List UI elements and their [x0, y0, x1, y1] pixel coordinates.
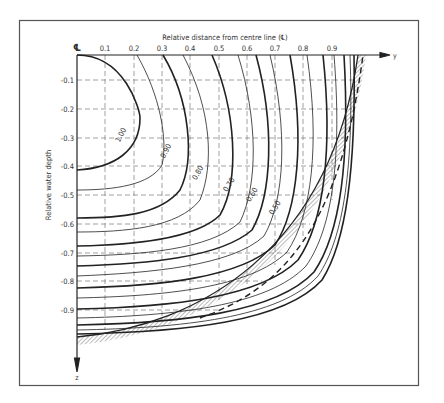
y-axis-symbol: y — [393, 52, 397, 60]
contour-label-0.80: 0.80 — [190, 164, 205, 182]
x-tick-label: 0.7 — [270, 44, 281, 53]
contour-0.70 — [77, 55, 269, 266]
contour-label-0.90: 0.90 — [158, 142, 173, 159]
contour-0.90 — [77, 55, 188, 218]
y-tick-label: -0.7 — [61, 249, 74, 258]
y-tick-label: -0.2 — [61, 105, 74, 114]
contour-label-0.70: 0.70 — [221, 176, 237, 194]
x-tick-label: 0.5 — [214, 44, 225, 53]
x-tick-label: 0.1 — [100, 44, 111, 53]
contour-label-1.00: 1.00 — [113, 126, 128, 143]
y-tick-label: -0.6 — [61, 220, 74, 229]
y-axis-arrow-icon — [380, 53, 390, 58]
y-axis-title: Relative water depth — [44, 150, 53, 220]
y-tick-label: -0.9 — [61, 306, 74, 315]
x-tick-label: 0.6 — [242, 44, 253, 53]
x-tick-label: 0.8 — [298, 44, 309, 53]
x-tick-label: 0.3 — [157, 44, 168, 53]
y-tick-label: -0.4 — [61, 162, 74, 171]
x-tick-labels: 0.1 0.2 0.3 0.4 0.5 0.6 0.7 0.8 0.9 — [100, 44, 338, 53]
x-tick-label: 0.4 — [185, 44, 196, 53]
centre-line-symbol: ℄ — [73, 42, 81, 53]
y-tick-label: -0.8 — [61, 277, 74, 286]
contour-1.00 — [77, 55, 140, 170]
z-axis-arrow-icon — [75, 358, 80, 372]
contour-0.35 — [77, 55, 351, 330]
channel-bed-hatch — [77, 55, 366, 345]
contour-0.50 — [77, 55, 327, 309]
figure: Relative distance from centre line (℄) R… — [0, 0, 444, 403]
x-tick-label: 0.9 — [327, 44, 338, 53]
contour-label-0.50: 0.50 — [267, 199, 283, 217]
y-tick-label: -0.5 — [61, 191, 74, 200]
contour-0.65 — [77, 55, 282, 276]
x-tick-label: 0.2 — [129, 44, 140, 53]
x-axis-title: Relative distance from centre line (℄) — [162, 33, 288, 42]
y-tick-labels: -0.1 -0.2 -0.3 -0.4 -0.5 -0.6 -0.7 -0.8 … — [61, 76, 74, 315]
z-axis-symbol: z — [75, 374, 79, 382]
y-tick-label: -0.1 — [61, 76, 74, 85]
contour-0.45 — [77, 55, 337, 318]
contour-0.40 — [77, 55, 346, 325]
y-tick-label: -0.3 — [61, 134, 74, 143]
